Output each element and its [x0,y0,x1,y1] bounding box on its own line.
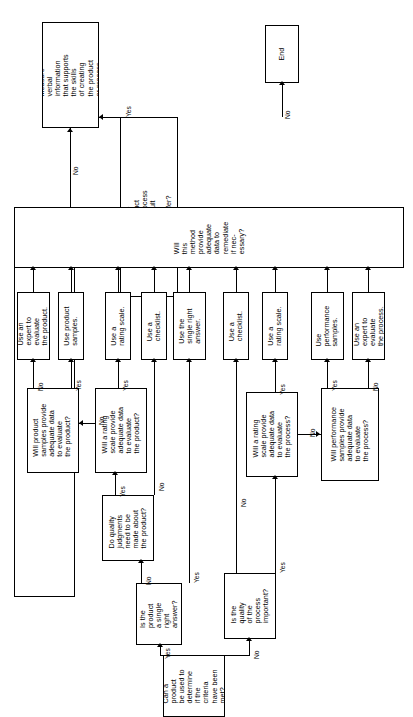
node-quality-of-process: Is the quality of the process important? [224,573,276,639]
edge-qop-no [236,360,237,573]
node-single-right-answer-label: Is the product a single right answer? [139,600,179,628]
edge-psa-yes-arrow [68,358,74,362]
edge-a9-arrow [365,266,371,270]
edge-label-qj-no: No [151,484,167,505]
edge-a4 [154,268,155,292]
edge-label-rspr-no: No [302,430,318,451]
edge-psa-no-arrow [30,358,36,362]
edge-start-no-arrow [246,637,252,641]
node-measure-verbal: Measure verbal information that supports… [42,22,99,128]
node-use-performance-samples: Use performance samples. [311,292,344,360]
edge-a3-arrow [115,266,121,270]
node-rating-scale-adequate-product-label: Will a rating scale provide adequate dat… [101,407,141,454]
edge-a4-arrow [151,266,157,270]
edge-sr-no-arrow [138,559,144,563]
node-start-can-product-label: Can a product be used to determine if th… [163,669,225,703]
node-product-samples-adequate-label: Will product samples provide adequate da… [33,404,73,457]
edge-label-far-transfer-no: No [277,112,293,133]
flowchart-canvas: Measure verbal information that supports… [0,0,413,717]
edge-qop-yes [275,477,276,573]
edge-a8 [327,268,328,292]
node-performance-samples-adequate-label: Will performance samples provide adequat… [330,407,370,462]
node-use-expert-product-label: Use an expert to evaluate the product. [17,307,49,346]
node-use-expert-product: Use an expert to evaluate the product. [17,292,50,360]
edge-a1-arrow [30,266,36,270]
edge-label-qj-yes: Yes [112,490,130,511]
edge-label-qop-yes: Yes [272,566,290,587]
node-use-checklist-product: Use a checklist. [141,292,167,360]
node-quality-judgments-label: Do quality judgments need to be made abo… [108,508,148,549]
edge-label-sr-no: No [138,578,154,599]
edge-sr-yes-arrow [186,358,192,362]
edge-label-far-transfer-yes: Yes [118,110,136,131]
node-use-checklist-product-label: Use a checklist. [146,311,162,341]
edge-label-start-yes: Yes [157,652,175,673]
edge-rspr-yes-arrow [272,358,278,362]
edge-label-rspr-yes: Yes [272,388,290,409]
edge-label-rsp-yes: Yes [115,384,133,405]
edge-a3 [118,268,119,292]
edge-label-start-no: No [246,652,262,673]
node-use-single-right-answer-label: Use the single right answer. [177,308,201,343]
node-use-product-samples: Use product samples. [58,292,84,360]
edge-qop-yes-arrow [272,475,278,479]
node-end: End [265,25,299,83]
edge-qj-no-arrow [151,358,157,362]
node-use-rating-scale-product: Use a rating scale. [105,292,131,360]
edge-a5-arrow [186,266,192,270]
edge-a1 [33,268,34,292]
edge-qop-no-arrow [233,358,239,362]
edge-label-rsp-no: No [91,418,107,439]
edge-label-psa-yes: Yes [68,384,86,405]
edge-a7-arrow [272,266,278,270]
edge-a5 [189,268,190,292]
edge-pfa-no-arrow [365,358,371,362]
node-rating-scale-adequate-process-label: Will a rating scale provide adequate dat… [252,411,292,458]
node-remediate-box: Will this method provide adequate data t… [14,207,404,268]
edge-label-qop-no: No [233,500,249,521]
edge-a6 [236,268,237,292]
node-measure-verbal-label: Measure verbal information that supports… [42,54,99,96]
node-end-label: End [278,48,286,61]
edge-label-psa-no: No [30,384,46,405]
edge-pfa-yes-arrow [324,358,330,362]
edge-label-remediate-no: No [65,168,81,189]
edge-sr-yes [189,360,190,583]
edge-a2 [71,268,72,292]
edge-qj-yes-arrow [112,471,118,475]
edge-a8-arrow [324,266,330,270]
node-use-rating-scale-process-label: Use a rating scale. [267,306,283,345]
edge-a6-arrow [233,266,239,270]
edge-label-sr-yes: Yes [186,576,204,597]
node-use-checklist-process-label: Use a checklist. [228,311,244,341]
edge-far-transfer-no-arrow [279,81,285,85]
node-use-performance-samples-label: Use performance samples. [315,306,339,347]
node-use-checklist-process: Use a checklist. [223,292,249,360]
node-use-single-right-answer: Use the single right answer. [173,292,206,360]
edge-qj-no-v [154,360,155,495]
node-use-rating-scale-process: Use a rating scale. [262,292,288,360]
node-remediate-label: Will this method provide adequate data t… [173,221,246,253]
edge-label-pfa-yes: Yes [324,384,342,405]
node-quality-of-process-label: Is the quality of the process important? [230,589,270,623]
edge-rsp-no-arrow [79,420,83,426]
edge-a9 [368,268,369,292]
edge-rsp-yes-arrow [115,358,121,362]
edge-a7 [275,268,276,292]
node-use-expert-process-label: Use an expert to evaluate the process. [352,306,384,346]
edge-far-transfer-yes-arrow [99,114,103,120]
node-use-expert-process: Use an expert to evaluate the process. [352,292,385,360]
edge-a2-arrow [68,266,74,270]
edge-remediate-no-arrow [67,128,73,132]
edge-label-pfa-no: No [365,384,381,405]
node-use-product-samples-label: Use product samples. [63,306,79,345]
edge-start-yes-arrow [157,643,163,647]
node-use-rating-scale-product-label: Use a rating scale. [110,306,126,345]
